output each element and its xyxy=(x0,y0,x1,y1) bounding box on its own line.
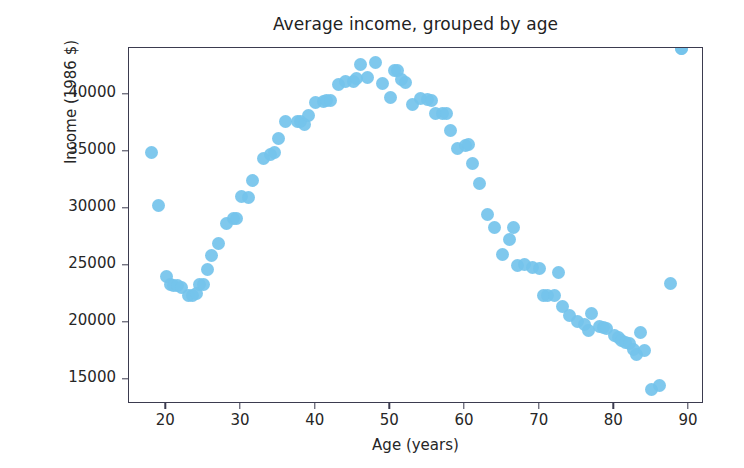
x-axis-tick-label: 20 xyxy=(135,411,195,429)
x-axis-tick xyxy=(314,403,315,409)
data-point xyxy=(354,58,367,71)
y-axis-tick-label: 20000 xyxy=(26,311,116,329)
data-point xyxy=(201,263,214,276)
y-axis-tick xyxy=(122,264,128,265)
x-axis-tick-label: 30 xyxy=(210,411,270,429)
x-axis-tick-label: 80 xyxy=(583,411,643,429)
x-axis-tick-label: 60 xyxy=(434,411,494,429)
y-axis-tick xyxy=(122,378,128,379)
x-axis-tick xyxy=(389,403,390,409)
data-point xyxy=(369,56,382,69)
x-axis-tick xyxy=(239,403,240,409)
data-point xyxy=(425,94,438,107)
data-points-layer xyxy=(129,48,702,402)
data-point xyxy=(384,91,397,104)
data-point xyxy=(399,76,412,89)
x-axis-tick-label: 90 xyxy=(658,411,718,429)
data-point xyxy=(638,344,651,357)
data-point xyxy=(272,132,285,145)
x-axis-tick xyxy=(463,403,464,409)
data-point xyxy=(634,326,647,339)
data-point xyxy=(653,379,666,392)
y-axis-tick-label: 25000 xyxy=(26,254,116,272)
x-axis-tick xyxy=(538,403,539,409)
y-axis-tick xyxy=(122,93,128,94)
y-axis-tick xyxy=(122,321,128,322)
data-point xyxy=(444,124,457,137)
data-point xyxy=(473,177,486,190)
y-axis-label: Income (1986 $) xyxy=(62,0,80,235)
x-axis-tick xyxy=(165,403,166,409)
data-point xyxy=(212,237,225,250)
plot-area xyxy=(128,47,703,403)
data-point xyxy=(246,174,259,187)
data-point xyxy=(152,199,165,212)
data-point xyxy=(230,212,243,225)
data-point xyxy=(533,262,546,275)
y-axis-tick xyxy=(122,150,128,151)
data-point xyxy=(585,307,598,320)
chart-title: Average income, grouped by age xyxy=(128,14,703,34)
data-point xyxy=(197,278,210,291)
x-axis-tick-label: 40 xyxy=(285,411,345,429)
data-point xyxy=(481,208,494,221)
x-axis-tick xyxy=(613,403,614,409)
data-point xyxy=(376,77,389,90)
x-axis-label: Age (years) xyxy=(128,436,703,454)
data-point xyxy=(664,277,677,290)
data-point xyxy=(324,94,337,107)
data-point xyxy=(302,109,315,122)
data-point xyxy=(503,233,516,246)
data-point xyxy=(496,248,509,261)
data-point xyxy=(268,146,281,159)
x-axis-tick xyxy=(687,403,688,409)
y-axis-tick-label: 15000 xyxy=(26,368,116,386)
data-point xyxy=(507,221,520,234)
data-point xyxy=(242,191,255,204)
scatter-chart-figure: Average income, grouped by age 203040506… xyxy=(0,0,744,468)
y-axis-tick xyxy=(122,207,128,208)
data-point xyxy=(488,221,501,234)
data-point xyxy=(205,249,218,262)
data-point xyxy=(145,146,158,159)
data-point xyxy=(675,47,688,55)
data-point xyxy=(361,71,374,84)
x-axis-tick-label: 70 xyxy=(509,411,569,429)
data-point xyxy=(552,266,565,279)
data-point xyxy=(440,107,453,120)
data-point xyxy=(466,157,479,170)
x-axis-tick-label: 50 xyxy=(359,411,419,429)
data-point xyxy=(462,138,475,151)
